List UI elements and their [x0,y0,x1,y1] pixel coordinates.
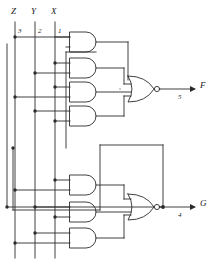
junction-g-feedback [161,205,165,209]
nor-2-bubble [154,204,159,209]
and-gate-5 [70,175,96,195]
output-label-f: F [199,80,206,90]
output-label-g: G [200,198,207,208]
junction-z-and5 [13,188,16,191]
nor-1-bubble [154,86,159,91]
and-gate-7 [70,228,96,248]
junction-x-and5 [53,178,56,181]
and-gate-3 [70,82,96,102]
junction-y-and7b [33,231,36,234]
junction-y-and4 [33,109,36,112]
pin-number-x: 1 [58,27,62,35]
junction-x-and2 [53,61,56,64]
junction-fb-outer [5,205,8,208]
input-label-z: Z [11,6,17,16]
and-gate-4 [70,106,96,126]
f-output-arrow [190,86,196,92]
nor-gate-1 [128,76,154,102]
junction-z-and3 [13,95,16,98]
junction-x-and6 [53,215,56,218]
g-output-arrow [190,204,196,210]
junction-z-and1 [13,35,16,38]
circuit-diagram: Z Y X 3 2 1 F 5 G 4 [0,0,213,261]
junction-y-and6 [33,205,36,208]
input-label-y: Y [31,6,37,16]
junction-x-and3 [53,85,56,88]
schematic-canvas: Z Y X 3 2 1 F 5 G 4 [0,0,213,261]
pin-number-z: 3 [17,27,22,35]
junction-y-and2 [33,71,36,74]
pin-number-f: 5 [178,93,182,101]
pin-number-y: 2 [38,27,42,35]
junction-dots [5,35,165,244]
and-gate-6 [70,202,96,222]
junction-x-and4 [53,119,56,122]
input-label-x: X [50,6,57,16]
and-gate-2 [70,58,96,78]
junction-z-and7 [13,241,16,244]
pin-number-g: 4 [178,211,182,219]
junction-fb-inner [11,146,14,149]
and-gate-1 [70,32,96,52]
